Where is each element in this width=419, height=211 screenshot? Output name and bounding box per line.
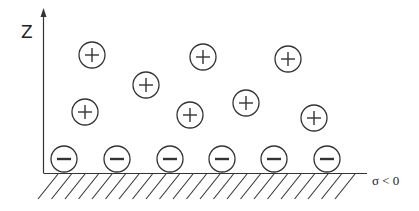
negative-ions xyxy=(51,146,340,172)
positive-ion-icon xyxy=(275,46,301,72)
charged-surface-diagram: Z σ < 0 xyxy=(0,0,419,211)
positive-ion-icon xyxy=(233,90,259,116)
positive-ion-icon xyxy=(177,102,203,128)
positive-ion-icon xyxy=(79,42,105,68)
negative-ion-icon xyxy=(209,146,235,172)
negative-ion-icon xyxy=(157,146,183,172)
positive-ion-icon xyxy=(72,99,98,125)
negative-ion-icon xyxy=(104,146,130,172)
positive-ion-icon xyxy=(133,72,159,98)
positive-ion-icon xyxy=(301,105,327,131)
negative-ion-icon xyxy=(314,146,340,172)
z-axis-label: Z xyxy=(21,22,33,42)
charged-surface xyxy=(38,174,367,200)
diagram-canvas xyxy=(0,0,419,211)
negative-ion-icon xyxy=(261,146,287,172)
surface-charge-label: σ < 0 xyxy=(372,173,399,189)
negative-ion-icon xyxy=(51,146,77,172)
surface-hatching xyxy=(38,174,355,199)
positive-ions xyxy=(72,42,327,131)
positive-ion-icon xyxy=(190,44,216,70)
z-axis xyxy=(41,8,47,173)
